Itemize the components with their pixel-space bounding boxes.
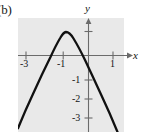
parabola-curve <box>18 32 118 132</box>
y-tick-label-neg3: -3 <box>72 113 80 123</box>
x-axis <box>18 53 133 59</box>
x-axis-label: x <box>133 50 138 61</box>
x-tick-label-neg1: -1 <box>57 59 65 69</box>
y-tick-label-neg1: -1 <box>72 75 80 85</box>
x-tick-label-pos1: 1 <box>110 59 115 69</box>
y-axis <box>86 18 92 132</box>
y-axis-arrowhead <box>86 18 92 24</box>
y-axis-label: y <box>85 3 90 14</box>
x-tick-label-neg3: -3 <box>20 59 28 69</box>
figure-container: (b) -3 -1 <box>0 0 142 132</box>
y-tick-label-neg2: -2 <box>72 94 80 104</box>
